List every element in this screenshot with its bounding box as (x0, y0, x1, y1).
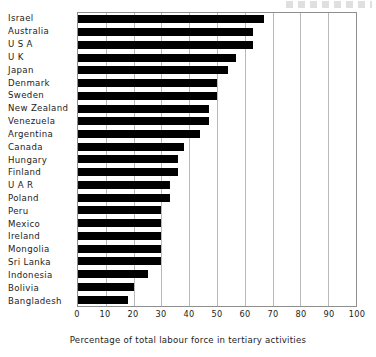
bar (78, 28, 253, 36)
bar (78, 79, 217, 87)
gridline (356, 13, 357, 306)
x-axis-title: Percentage of total labour force in tert… (0, 335, 376, 345)
bar (78, 54, 236, 62)
category-label: Ireland (0, 230, 74, 243)
category-label: Hungary (0, 153, 74, 166)
bar-row (78, 242, 356, 255)
bar-row (78, 64, 356, 77)
bar-row (78, 115, 356, 128)
bar (78, 181, 170, 189)
bar-row (78, 140, 356, 153)
category-label: Argentina (0, 127, 74, 140)
bar-row (78, 229, 356, 242)
category-label: Finland (0, 166, 74, 179)
category-label: New Zealand (0, 102, 74, 115)
x-tick-label: 60 (239, 309, 250, 319)
bar (78, 105, 209, 113)
category-label: U S A (0, 38, 74, 51)
x-tick-label: 20 (127, 309, 138, 319)
bar (78, 66, 228, 74)
x-tick-label: 80 (295, 309, 306, 319)
category-label: Denmark (0, 76, 74, 89)
bar-row (78, 13, 356, 26)
bar (78, 194, 170, 202)
bar-row (78, 179, 356, 192)
category-label: Poland (0, 192, 74, 205)
x-axis-ticks: 0102030405060708090100 (77, 307, 357, 321)
category-label: Indonesia (0, 269, 74, 282)
x-tick-label: 0 (74, 309, 80, 319)
bar (78, 257, 161, 265)
bar-row (78, 191, 356, 204)
category-label: Canada (0, 140, 74, 153)
bar-row (78, 89, 356, 102)
bar (78, 92, 217, 100)
bar-row (78, 51, 356, 64)
bar-row (78, 204, 356, 217)
x-tick-label: 100 (349, 309, 366, 319)
bar (78, 232, 161, 240)
category-label: Peru (0, 204, 74, 217)
bar-row (78, 255, 356, 268)
bar (78, 41, 253, 49)
bar-row (78, 217, 356, 230)
bar-chart: IsraelAustraliaU S AU KJapanDenmarkSwede… (0, 0, 376, 357)
bar-row (78, 268, 356, 281)
category-label: Bangladesh (0, 294, 74, 307)
plot-area (77, 12, 357, 307)
category-label: Sweden (0, 89, 74, 102)
category-label: Mongolia (0, 243, 74, 256)
category-label: Mexico (0, 217, 74, 230)
bar-row (78, 166, 356, 179)
bar (78, 117, 209, 125)
category-label: Sri Lanka (0, 256, 74, 269)
bar (78, 245, 161, 253)
bar-row (78, 153, 356, 166)
x-tick-label: 70 (267, 309, 278, 319)
bar (78, 143, 184, 151)
bar (78, 168, 178, 176)
bar (78, 206, 161, 214)
bar-row (78, 77, 356, 90)
bar-row (78, 128, 356, 141)
bar (78, 219, 161, 227)
bar-row (78, 102, 356, 115)
category-label: Israel (0, 12, 74, 25)
x-tick-label: 40 (183, 309, 194, 319)
x-tick-label: 50 (211, 309, 222, 319)
x-tick-label: 30 (155, 309, 166, 319)
x-tick-label: 10 (99, 309, 110, 319)
category-axis-labels: IsraelAustraliaU S AU KJapanDenmarkSwede… (0, 12, 74, 307)
category-label: Venezuela (0, 115, 74, 128)
x-tick-label: 90 (323, 309, 334, 319)
bar (78, 155, 178, 163)
scan-artifact (286, 1, 372, 8)
bar-row (78, 38, 356, 51)
category-label: Australia (0, 25, 74, 38)
bar-row (78, 280, 356, 293)
category-label: U A R (0, 179, 74, 192)
bar-series (78, 13, 356, 306)
bar-row (78, 293, 356, 306)
bar (78, 270, 148, 278)
bar (78, 296, 128, 304)
bar-row (78, 26, 356, 39)
category-label: Bolivia (0, 281, 74, 294)
bar (78, 15, 264, 23)
category-label: Japan (0, 63, 74, 76)
bar (78, 283, 134, 291)
category-label: U K (0, 50, 74, 63)
bar (78, 130, 200, 138)
